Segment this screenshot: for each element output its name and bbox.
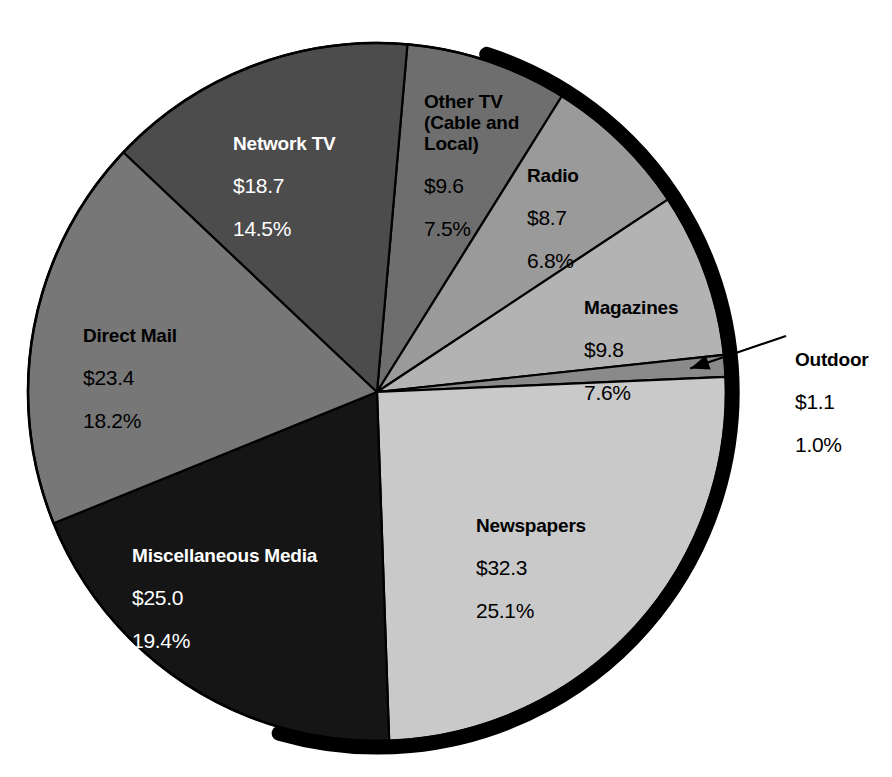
slice-percent-direct-mail: 18.2% xyxy=(83,409,177,433)
slice-name-direct-mail: Direct Mail xyxy=(83,325,177,347)
slice-name-miscellaneous-media: Miscellaneous Media xyxy=(132,545,317,567)
slice-percent-magazines: 7.6% xyxy=(584,381,678,405)
slice-name-magazines: Magazines xyxy=(584,297,678,319)
slice-label-magazines: Magazines $9.8 7.6% xyxy=(584,278,678,424)
slice-label-other-tv: Other TV (Cable and Local) $9.6 7.5% xyxy=(424,72,528,260)
slice-name-outdoor: Outdoor xyxy=(795,349,869,371)
slice-percent-outdoor: 1.0% xyxy=(795,433,869,457)
slice-value-network-tv: $18.7 xyxy=(233,174,336,198)
slice-label-network-tv: Network TV $18.7 14.5% xyxy=(233,114,336,260)
slice-value-newspapers: $32.3 xyxy=(476,556,586,580)
slice-value-direct-mail: $23.4 xyxy=(83,366,177,390)
slice-value-outdoor: $1.1 xyxy=(795,390,869,414)
slice-label-outdoor: Outdoor $1.1 1.0% xyxy=(795,330,869,476)
slice-percent-miscellaneous-media: 19.4% xyxy=(132,629,317,653)
slice-name-other-tv: Other TV (Cable and Local) xyxy=(424,91,528,155)
slice-label-miscellaneous-media: Miscellaneous Media $25.0 19.4% xyxy=(132,526,317,672)
slice-value-other-tv: $9.6 xyxy=(424,174,528,198)
slice-label-radio: Radio $8.7 6.8% xyxy=(527,146,579,292)
slice-value-magazines: $9.8 xyxy=(584,338,678,362)
slice-percent-other-tv: 7.5% xyxy=(424,217,528,241)
slice-label-direct-mail: Direct Mail $23.4 18.2% xyxy=(83,306,177,452)
slice-value-radio: $8.7 xyxy=(527,206,579,230)
slice-percent-radio: 6.8% xyxy=(527,249,579,273)
slice-name-radio: Radio xyxy=(527,165,579,187)
slice-percent-network-tv: 14.5% xyxy=(233,217,336,241)
slice-label-newspapers: Newspapers $32.3 25.1% xyxy=(476,496,586,642)
slice-name-network-tv: Network TV xyxy=(233,133,336,155)
slice-value-miscellaneous-media: $25.0 xyxy=(132,586,317,610)
slice-percent-newspapers: 25.1% xyxy=(476,599,586,623)
slice-name-newspapers: Newspapers xyxy=(476,515,586,537)
pie-chart: Network TV $18.7 14.5% Other TV (Cable a… xyxy=(0,0,892,777)
